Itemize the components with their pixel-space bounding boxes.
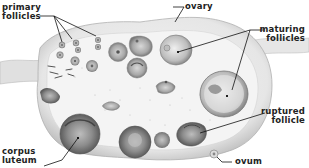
label-ruptured-follicle-line2: follicle	[261, 116, 305, 125]
label-corpus-luteum-line2: luteum	[2, 156, 37, 165]
label-ovary-text: ovary	[185, 2, 213, 11]
maturing-follicle-upper	[160, 35, 192, 65]
label-ovum-text: ovum	[235, 157, 262, 166]
label-maturing-follicles: maturing follicles	[259, 25, 305, 43]
label-corpus-luteum: corpus luteum	[2, 147, 37, 165]
label-ruptured-follicle: ruptured follicle	[261, 107, 305, 125]
ovum-cell	[210, 150, 218, 158]
label-primary-follicles: primary follicles	[2, 3, 41, 21]
label-maturing-follicles-line2: follicles	[259, 34, 305, 43]
label-ovary: ovary	[185, 2, 213, 11]
maturing-follicle-large	[200, 71, 248, 117]
label-primary-follicles-line2: follicles	[2, 12, 41, 21]
ovary-diagram: primary follicles ovary maturing follicl…	[0, 0, 309, 168]
corpus-luteum	[60, 114, 100, 154]
label-ovum: ovum	[235, 157, 262, 166]
